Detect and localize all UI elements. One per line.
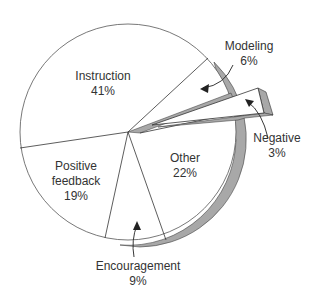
label-positive-feedback: Positive feedback 19% xyxy=(52,159,101,204)
label-modeling: Modeling 6% xyxy=(225,39,274,69)
label-other: Other 22% xyxy=(170,151,200,181)
label-encouragement: Encouragement 9% xyxy=(96,259,181,289)
label-instruction: Instruction 41% xyxy=(75,69,130,99)
label-negative: Negative 3% xyxy=(253,131,300,161)
